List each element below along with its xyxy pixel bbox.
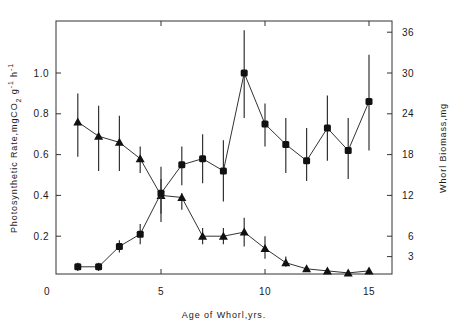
y-right-tick-label: 6 [408, 231, 414, 242]
square-marker [303, 157, 310, 164]
triangle-marker [261, 244, 270, 252]
y-right-tick-label: 36 [402, 27, 414, 38]
y-left-tick-label: 0.4 [34, 190, 49, 201]
y-left-tick-label: 0.8 [34, 108, 49, 119]
triangle-marker [281, 258, 290, 266]
y-left-tick-label: 0.2 [34, 231, 49, 242]
y-right-axis-title: Whorl Biomass,mg [438, 103, 448, 193]
x-tick-label: 15 [363, 286, 375, 297]
x-tick-label: 10 [259, 286, 271, 297]
square-marker [324, 125, 331, 132]
square-marker [74, 263, 81, 270]
x-axis-title: Age of Whorl,yrs. [182, 310, 266, 320]
y-right-tick-label: 24 [402, 108, 414, 119]
y-right-tick-label: 12 [402, 190, 414, 201]
svg-text:Photosynthetic Rate,mgCO2 g-1: Photosynthetic Rate,mgCO2 g-1 h-1 [7, 63, 22, 233]
square-marker [199, 155, 206, 162]
square-marker [95, 263, 102, 270]
square-marker [137, 231, 144, 238]
square-marker [220, 167, 227, 174]
square-marker [345, 147, 352, 154]
y-right-tick-label: 30 [402, 68, 414, 79]
y-right-tick-label: 3 [408, 251, 414, 262]
triangle-marker [240, 228, 249, 236]
triangle-marker [136, 154, 145, 162]
x-tick-label: 5 [158, 286, 164, 297]
y-left-tick-label: 1.0 [34, 68, 49, 79]
triangle-marker [73, 117, 82, 125]
square-marker [262, 121, 269, 128]
chart: 0510150.20.40.60.81.0361218243036 Age of… [0, 0, 462, 332]
square-marker [116, 243, 123, 250]
square-marker [158, 190, 165, 197]
square-marker [178, 161, 185, 168]
y-right-tick-label: 18 [402, 149, 414, 160]
y-left-axis-title: Photosynthetic Rate,mgCO2 g-1 h-1 [7, 63, 22, 233]
triangle-marker [94, 132, 103, 140]
square-marker [282, 141, 289, 148]
triangle-marker [365, 266, 374, 274]
square-marker [241, 70, 248, 77]
y-left-tick-label: 0.6 [34, 149, 49, 160]
square-marker [366, 98, 373, 105]
x-tick-label: 0 [44, 286, 50, 297]
svg-text:Whorl Biomass,mg: Whorl Biomass,mg [438, 103, 448, 193]
